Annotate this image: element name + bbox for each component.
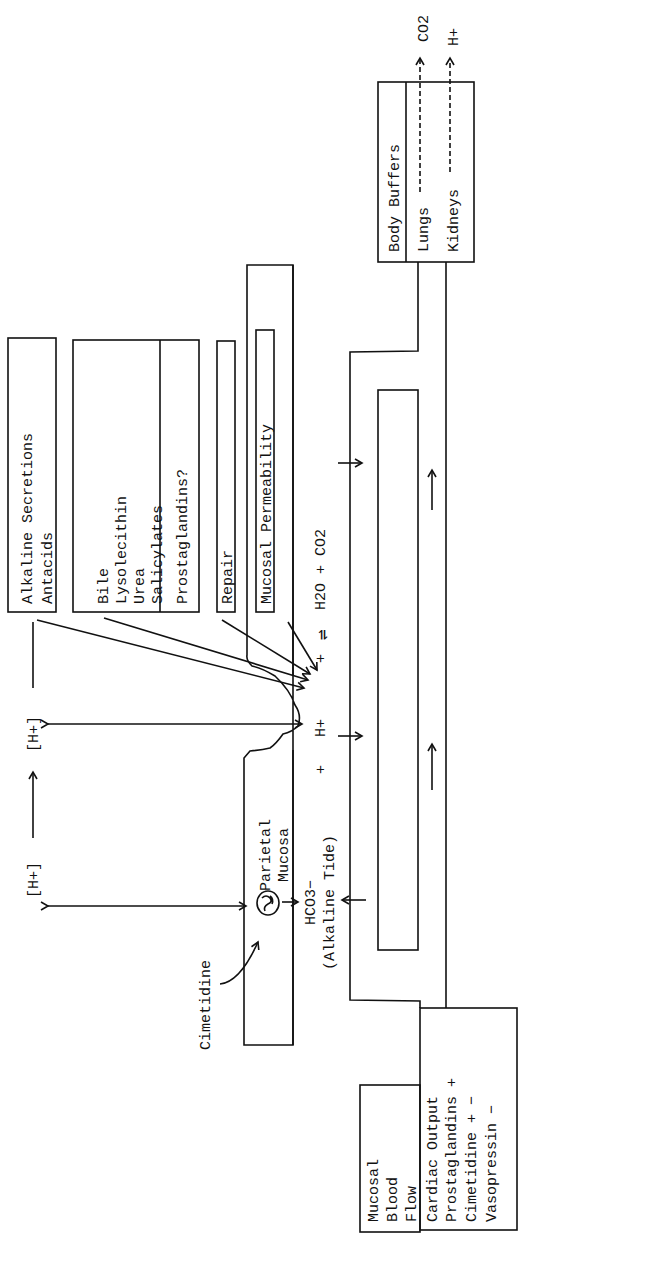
- vessel-outer-wall: [350, 262, 420, 1008]
- proton-label: H+: [313, 719, 330, 737]
- cimetidine-factor: Cimetidine + −: [464, 1096, 481, 1222]
- antacids-text: Antacids: [40, 532, 57, 604]
- body-buffers-box: Body Buffers Lungs CO2 Kidneys H+: [378, 15, 474, 262]
- mucosal-label: Mucosal: [366, 1159, 383, 1222]
- prostaglandins-factor: Prostaglandins +: [444, 1078, 461, 1222]
- repair-text: Repair: [220, 550, 237, 604]
- cimetidine-label: Cimetidine: [198, 960, 215, 1050]
- body-buffers-title: Body Buffers: [387, 144, 404, 252]
- urea-text: Urea: [132, 568, 149, 604]
- lysolecithin-text: Lysolecithin: [114, 496, 131, 604]
- bicarbonate-label: HCO3−: [303, 880, 320, 925]
- mucosal-permeability-text: Mucosal Permeability: [259, 424, 276, 604]
- salicylates-text: Salicylates: [150, 505, 167, 604]
- h-lumen-left-label: [H+]: [26, 862, 43, 898]
- kidneys-label: Kidneys: [446, 189, 463, 252]
- diagram-canvas: [H+] [H+] Alkaline Secretions Antacids B…: [0, 0, 672, 1269]
- injury-factors-box: Bile Lysolecithin Urea Salicylates Prost…: [73, 340, 199, 612]
- lungs-label: Lungs: [416, 207, 433, 252]
- mucosa-label: Mucosa: [276, 828, 293, 882]
- prostaglandins-question-text: Prostaglandins?: [175, 469, 192, 604]
- h-lumen-right-label: [H+]: [26, 716, 43, 752]
- blood-label: Blood: [385, 1177, 402, 1222]
- flow-label: Flow: [404, 1186, 421, 1222]
- repair-box: Repair: [217, 341, 237, 612]
- co2-output-label: CO2: [416, 15, 433, 42]
- alkaline-secretions-text: Alkaline Secretions: [20, 433, 37, 604]
- plus-sign-2: +: [313, 654, 330, 663]
- blood-vessel: [350, 262, 446, 1008]
- vasopressin-factor: Vasopressin −: [484, 1105, 501, 1222]
- alkaline-secretions-box: Alkaline Secretions Antacids: [8, 338, 57, 612]
- products-label: H2O + CO2: [313, 529, 330, 610]
- cimetidine-arrow: [220, 942, 258, 984]
- parietal-label: Parietal: [258, 819, 275, 891]
- alkaline-tide-label: (Alkaline Tide): [322, 835, 339, 970]
- h-output-label: H+: [446, 28, 463, 46]
- bile-text: Bile: [96, 568, 113, 604]
- reaction-row: HCO3− (Alkaline Tide) + H+ + ⇌ H2O + CO2: [282, 463, 366, 970]
- factor-arrows: [37, 618, 317, 688]
- vessel-inner-wall: [378, 390, 418, 950]
- plus-sign-1: +: [313, 765, 330, 774]
- mucosal-permeability-box: Mucosal Permeability: [256, 330, 276, 612]
- parietal-cell-icon: [257, 891, 279, 915]
- cimetidine-annotation: Cimetidine: [198, 942, 258, 1050]
- parietal-cell: Parietal Mucosa: [257, 819, 293, 915]
- cardiac-output-factor: Cardiac Output: [425, 1096, 442, 1222]
- equilibrium-arrows: ⇌: [313, 629, 333, 640]
- blood-flow-box: Mucosal Blood Flow Cardiac Output Prosta…: [360, 1008, 517, 1232]
- mucosal-layer: [244, 265, 299, 1045]
